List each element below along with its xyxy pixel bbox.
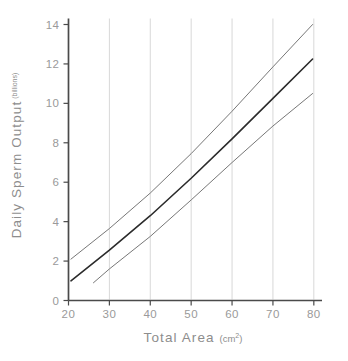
- y-tick-label: 8: [53, 137, 60, 149]
- scatter-plot-canvas: 0246810121420304050607080: [0, 0, 348, 361]
- x-tick-label: 80: [307, 308, 321, 320]
- x-tick-label: 20: [62, 308, 76, 320]
- y-tick-label: 6: [53, 176, 60, 188]
- y-tick-label: 4: [53, 216, 60, 228]
- data-line: [93, 94, 312, 283]
- y-tick-label: 14: [46, 19, 60, 31]
- x-tick-label: 30: [102, 308, 116, 320]
- tick-labels-group: 0246810121420304050607080: [46, 19, 321, 320]
- x-axis-title-main: Total Area: [144, 330, 215, 345]
- y-tick-label: 2: [53, 255, 60, 267]
- x-axis-title: Total Area (cm2): [68, 330, 318, 345]
- y-tick-label: 12: [46, 58, 60, 70]
- x-tick-label: 60: [225, 308, 239, 320]
- chart-figure: Daily Sperm Output(billions) 02468101214…: [0, 0, 348, 361]
- y-tick-label: 0: [53, 295, 60, 307]
- axis-lines-group: [69, 19, 323, 301]
- y-tick-label: 10: [46, 97, 60, 109]
- data-series-group: [71, 25, 313, 283]
- data-line: [71, 25, 313, 260]
- x-axis-unit-suffix: ): [239, 333, 242, 344]
- tick-marks-group: [64, 25, 314, 306]
- data-line: [71, 59, 313, 281]
- x-tick-label: 70: [266, 308, 280, 320]
- x-axis-title-unit: (cm2): [220, 333, 243, 344]
- x-tick-label: 50: [184, 308, 198, 320]
- x-axis-unit-prefix: (cm: [220, 333, 236, 344]
- x-tick-label: 40: [143, 308, 157, 320]
